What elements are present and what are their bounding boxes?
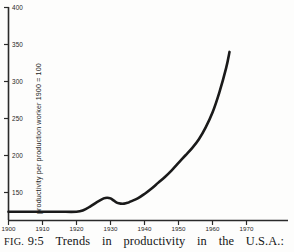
x-tick-label-1930: 1930 (103, 225, 118, 232)
caption-word-usa: U.S.A.: (246, 234, 284, 248)
caption-number: 9:5 (28, 234, 44, 248)
caption-label: FIG. (4, 236, 24, 247)
x-tick-label-1950: 1950 (171, 225, 186, 232)
x-tick-label-1900: 1900 (1, 225, 16, 232)
caption-word-in-1: in (102, 234, 112, 248)
x-tick-label-1970: 1970 (239, 225, 254, 232)
y-tick-label-300: 300 (12, 78, 23, 85)
y-tick-label-150: 150 (12, 189, 23, 196)
productivity-line-chart: 400 350 300 250 200 150 productivity per… (0, 0, 294, 232)
caption-word-in-2: in (197, 234, 207, 248)
chart-background (0, 0, 294, 232)
figure-container: 400 350 300 250 200 150 productivity per… (0, 0, 294, 252)
caption-word-trends: Trends (56, 234, 91, 248)
x-tick-label-1960: 1960 (205, 225, 220, 232)
y-axis-title: productivity per production worker 1900 … (35, 63, 43, 214)
chart-plot-area: 400 350 300 250 200 150 productivity per… (0, 0, 294, 232)
y-tick-label-250: 250 (12, 115, 23, 122)
caption-word-productivity: productivity (123, 234, 185, 248)
x-tick-label-1940: 1940 (137, 225, 152, 232)
caption-word-the: the (219, 234, 234, 248)
y-tick-label-200: 200 (12, 152, 23, 159)
y-tick-label-400: 400 (12, 4, 23, 11)
x-tick-label-1920: 1920 (69, 225, 84, 232)
figure-caption: FIG.9:5TrendsinproductivityintheU.S.A.: (4, 234, 292, 252)
y-tick-label-350: 350 (12, 41, 23, 48)
x-tick-label-1910: 1910 (35, 225, 50, 232)
